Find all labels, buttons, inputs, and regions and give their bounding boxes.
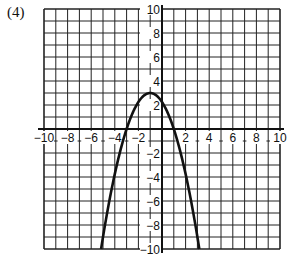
x-tick-label: 10 [273,131,287,145]
y-tick-label: −2 [146,147,160,161]
x-tick-label: −4 [108,131,122,145]
x-tick-label: 6 [229,131,236,145]
x-tick-label: −8 [61,131,75,145]
x-tick-label: 4 [206,131,213,145]
y-tick-label: −4 [146,171,160,185]
y-tick-label: 8 [153,27,160,41]
y-tick-label: −8 [146,219,160,233]
x-tick-label: −2 [132,131,146,145]
y-tick-label: −10 [140,243,161,257]
y-tick-label: 2 [153,99,160,113]
x-tick-label: 8 [253,131,260,145]
x-tick-label: 2 [182,131,189,145]
y-tick-label: 10 [147,3,161,17]
axes [38,5,284,253]
x-tick-label: −6 [84,131,98,145]
coordinate-grid-chart: −10−8−6−4−2246810108642−2−4−6−8−10 [0,0,289,259]
y-tick-label: −6 [146,195,160,209]
y-tick-label: 4 [153,75,160,89]
y-tick-label: 6 [153,51,160,65]
x-tick-label: −10 [34,131,55,145]
